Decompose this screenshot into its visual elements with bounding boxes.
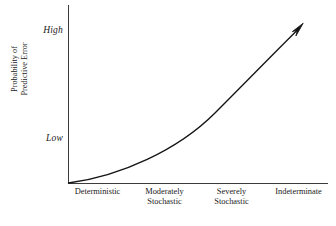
x-axis-category-moderately-stochastic-line-2: Stochastic — [131, 197, 198, 207]
x-axis-category-indeterminate: Indeterminate — [265, 187, 332, 197]
y-axis-title-line-1: Probability of — [10, 9, 20, 129]
x-axis-category-moderately-stochastic-line-1: Moderately — [131, 187, 198, 197]
x-axis-category-moderately-stochastic: Moderately Stochastic — [131, 187, 198, 208]
data-curve — [69, 28, 300, 183]
x-axis-category-deterministic: Deterministic — [64, 187, 131, 197]
x-axis-category-severely-stochastic-line-2: Stochastic — [198, 197, 265, 207]
y-axis-tick-label-low: Low — [18, 133, 63, 143]
x-axis-category-labels: Deterministic Moderately Stochastic Seve… — [64, 187, 332, 217]
x-axis-category-severely-stochastic: Severely Stochastic — [198, 187, 265, 208]
x-axis-category-severely-stochastic-line-1: Severely — [198, 187, 265, 197]
x-axis-category-deterministic-line-1: Deterministic — [64, 187, 131, 197]
figure-container: High Low Probability of Predictive Error… — [0, 0, 336, 226]
x-axis-category-indeterminate-line-1: Indeterminate — [265, 187, 332, 197]
y-axis-title-line-2: Predictive Error — [20, 9, 30, 129]
y-axis-title: Probability of Predictive Error — [10, 9, 32, 129]
